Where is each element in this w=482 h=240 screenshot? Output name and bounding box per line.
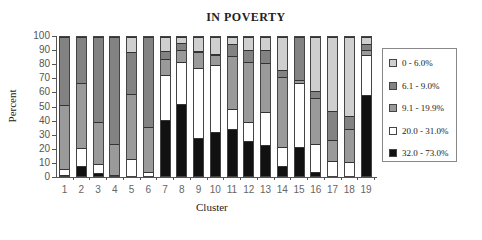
- x-tick-label: 8: [179, 184, 185, 195]
- bar-segment: [161, 59, 170, 74]
- stacked-bar: [277, 36, 288, 177]
- legend-swatch: [389, 149, 397, 157]
- legend-swatch: [389, 59, 397, 67]
- y-tick-label: 30: [39, 130, 50, 140]
- bar-segment: [278, 70, 287, 77]
- bar-segment: [345, 162, 354, 176]
- bar-segment: [261, 50, 270, 64]
- x-tick-mark: [257, 177, 258, 180]
- bar-segment: [311, 37, 320, 91]
- bar-segment: [211, 55, 220, 65]
- y-tick-label: 20: [39, 144, 50, 154]
- y-tick-mark: [52, 107, 56, 108]
- y-tick-mark: [52, 135, 56, 136]
- legend-item: 6.1 - 9.0%: [389, 81, 440, 91]
- legend: 0 - 6.0%6.1 - 9.0%9.1 - 19.9%20.0 - 31.0…: [382, 48, 457, 162]
- stacked-bar: [260, 36, 271, 177]
- bar-segment: [60, 105, 69, 169]
- bar-segment: [110, 175, 119, 176]
- stacked-bar: [310, 36, 321, 177]
- bar-segment: [278, 37, 287, 70]
- y-tick-label: 60: [39, 87, 50, 97]
- bar-segment: [161, 37, 170, 51]
- y-tick-mark: [52, 50, 56, 51]
- bar-segment: [261, 112, 270, 145]
- bar-segment: [295, 147, 304, 176]
- stacked-bar: [243, 36, 254, 177]
- bar-segment: [328, 140, 337, 161]
- bar-segment: [94, 37, 103, 122]
- bar-segment: [244, 62, 253, 122]
- stacked-bar: [193, 36, 204, 177]
- y-tick-label: 0: [44, 172, 50, 182]
- stacked-bar: [227, 36, 238, 177]
- x-tick-label: 18: [344, 184, 355, 195]
- bar-segment: [177, 43, 186, 50]
- stacked-bar: [93, 36, 104, 177]
- bar-segment: [127, 159, 136, 176]
- bar-segment: [211, 132, 220, 176]
- legend-item: 20.0 - 31.0%: [389, 126, 449, 136]
- bar-segment: [311, 144, 320, 172]
- x-tick-mark: [173, 177, 174, 180]
- x-tick-label: 5: [129, 184, 135, 195]
- x-tick-label: 10: [210, 184, 221, 195]
- y-tick-label: 70: [39, 73, 50, 83]
- legend-label: 32.0 - 73.0%: [402, 148, 449, 158]
- y-tick-mark: [52, 36, 56, 37]
- x-tick-label: 7: [162, 184, 168, 195]
- x-tick-mark: [140, 177, 141, 180]
- x-axis-label: Cluster: [196, 201, 228, 213]
- x-tick-mark: [274, 177, 275, 180]
- bar-segment: [244, 141, 253, 176]
- x-tick-label: 9: [196, 184, 202, 195]
- bar-segment: [278, 166, 287, 176]
- bar-segment: [244, 37, 253, 50]
- x-tick-label: 19: [360, 184, 371, 195]
- y-tick-label: 100: [33, 31, 50, 41]
- y-tick-label: 40: [39, 116, 50, 126]
- x-tick-label: 14: [277, 184, 288, 195]
- legend-label: 20.0 - 31.0%: [402, 126, 449, 136]
- bar-segment: [261, 37, 270, 50]
- bar-segment: [278, 77, 287, 147]
- x-tick-label: 11: [227, 184, 237, 195]
- bar-segment: [345, 116, 354, 129]
- bar-segment: [295, 83, 304, 147]
- bar-segment: [161, 120, 170, 176]
- bar-segment: [228, 129, 237, 176]
- y-tick-mark: [52, 92, 56, 93]
- y-tick-label: 10: [39, 158, 50, 168]
- x-tick-mark: [341, 177, 342, 180]
- bar-segment: [60, 175, 69, 176]
- stacked-bar: [210, 36, 221, 177]
- stacked-bar: [327, 36, 338, 177]
- x-tick-mark: [290, 177, 291, 180]
- bar-segment: [177, 62, 186, 104]
- x-tick-mark: [89, 177, 90, 180]
- x-tick-label: 16: [310, 184, 321, 195]
- bar-segment: [77, 37, 86, 83]
- legend-swatch: [389, 127, 397, 135]
- y-axis-line: [56, 36, 57, 177]
- y-tick-label: 80: [39, 59, 50, 69]
- y-tick-mark: [52, 149, 56, 150]
- legend-item: 32.0 - 73.0%: [389, 148, 449, 158]
- bar-segment: [244, 50, 253, 63]
- bar-segment: [228, 44, 237, 57]
- bar-segment: [211, 37, 220, 54]
- x-tick-mark: [357, 177, 358, 180]
- bar-segment: [77, 83, 86, 148]
- stacked-bar: [344, 36, 355, 177]
- bar-segment: [144, 172, 153, 176]
- bar-segment: [161, 51, 170, 59]
- x-tick-label: 3: [95, 184, 101, 195]
- x-tick-label: 1: [62, 184, 68, 195]
- stacked-bar: [361, 36, 372, 177]
- stacked-bar: [143, 36, 154, 177]
- x-tick-label: 6: [145, 184, 151, 195]
- bar-segment: [94, 173, 103, 176]
- bar-segment: [328, 161, 337, 176]
- bar-segment: [127, 94, 136, 159]
- bar-segment: [94, 122, 103, 164]
